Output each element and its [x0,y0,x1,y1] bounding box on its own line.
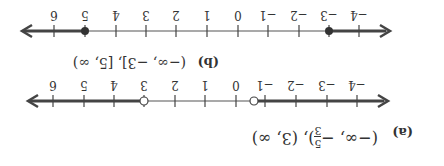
tick-label: 3 [142,8,150,22]
tick-label: 4 [110,78,118,92]
tick-label: −3 [318,78,336,92]
part-b-interval: (−∞, −3], [5, ∞) [73,55,186,71]
tick-label: 0 [234,8,242,22]
tick-label: 4 [112,8,120,22]
tick-label: −2 [290,8,308,22]
closed-point-neg-3 [325,27,333,35]
tick-label: −3 [320,8,338,22]
part-b-label: (b) [198,55,219,70]
number-lines: −4 −3 −2 −1 0 1 2 3 4 5 6 [0,0,444,166]
tick-label: 2 [171,78,179,92]
open-point-neg-5-3 [250,97,258,105]
number-line-a: −4 −3 −2 −1 0 1 2 3 4 5 6 [28,78,388,107]
tick-label: −4 [350,8,368,22]
open-point-3 [140,97,148,105]
tick-label: 6 [50,8,58,22]
tick-label: 5 [80,78,88,92]
tick-label: −2 [287,78,305,92]
tick-label: 6 [49,78,57,92]
number-line-b: −4 −3 −2 −1 0 1 2 3 4 5 6 [22,8,390,37]
tick-label: −1 [256,78,274,92]
tick-label: 3 [140,78,148,92]
tick-label: −1 [259,8,277,22]
tick-label: 1 [201,78,209,92]
tick-label: 1 [203,8,211,22]
figure-rotated: (a) (−∞, −53), (3, ∞) [0,0,444,166]
tick-label: −4 [348,78,366,92]
tick-label: 0 [232,78,240,92]
closed-point-5 [81,27,89,35]
tick-label: 2 [172,8,180,22]
tick-label: 5 [81,8,89,22]
